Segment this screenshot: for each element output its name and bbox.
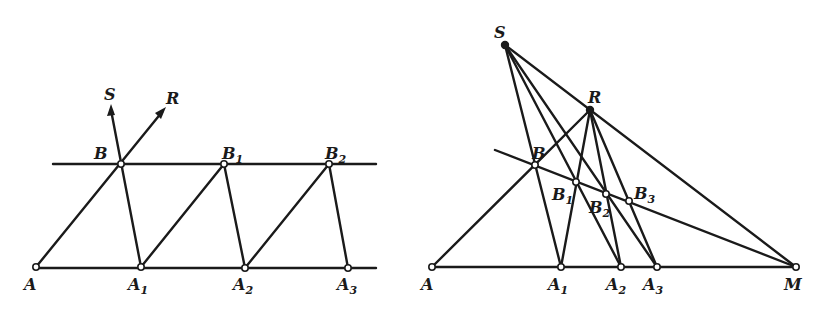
- point-a: [429, 264, 435, 270]
- point-r: [587, 107, 594, 114]
- point-a2: [618, 264, 624, 270]
- point-b: [118, 161, 124, 167]
- label-m: M: [783, 275, 803, 294]
- point-a1: [558, 264, 564, 270]
- segment-a1-b1: [141, 164, 224, 267]
- point-a1: [138, 264, 144, 270]
- label-a3: A3: [335, 275, 357, 297]
- label-r: R: [587, 88, 601, 107]
- arrowhead-s-icon: [107, 104, 115, 116]
- line-s-m: [505, 45, 796, 267]
- point-a: [33, 264, 39, 270]
- ray-a1-s: [111, 110, 141, 267]
- ray-a-r: [36, 112, 162, 267]
- label-a: A: [419, 275, 433, 294]
- label-a1: A1: [126, 275, 148, 297]
- label-b3: B3: [633, 184, 656, 206]
- label-s: S: [494, 23, 506, 42]
- label-a1: A1: [546, 275, 568, 297]
- geometry-figure: S R B B1 B2 A A1 A2 A3: [0, 0, 829, 327]
- segment-b1-a2: [224, 164, 245, 268]
- label-a2: A2: [231, 275, 253, 297]
- point-m: [793, 264, 799, 270]
- point-a2: [242, 265, 248, 271]
- point-a3: [345, 265, 351, 271]
- right-panel: S R B B1 B2 B3 A A1 A2 A3 M: [419, 23, 803, 297]
- segment-b2-a3: [329, 164, 348, 268]
- label-b2: B2: [324, 144, 347, 166]
- point-a3: [654, 264, 660, 270]
- segment-a2-b2: [245, 164, 329, 268]
- point-b1: [573, 179, 579, 185]
- label-b: B: [531, 144, 546, 163]
- point-s: [502, 42, 509, 49]
- label-b1: B1: [551, 185, 573, 207]
- point-b3: [626, 198, 632, 204]
- label-s: S: [104, 85, 116, 104]
- left-panel: S R B B1 B2 A A1 A2 A3: [22, 85, 376, 297]
- label-a: A: [22, 275, 36, 294]
- label-b: B: [93, 144, 108, 163]
- line-s-a2: [505, 45, 621, 267]
- label-b1: B1: [221, 144, 243, 166]
- label-a2: A2: [604, 275, 626, 297]
- label-r: R: [165, 89, 179, 108]
- label-a3: A3: [641, 275, 663, 297]
- point-b2: [603, 191, 609, 197]
